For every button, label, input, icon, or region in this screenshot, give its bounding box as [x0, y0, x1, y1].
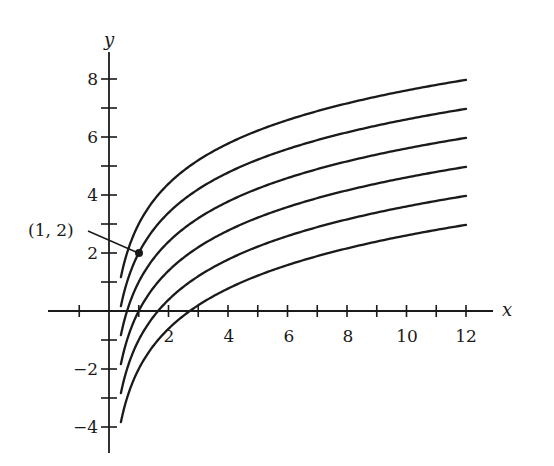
solution-curve [121, 225, 466, 422]
x-tick-label: 6 [284, 326, 295, 346]
x-tick-label: 4 [224, 326, 235, 346]
y-tick-labels: 8 6 4 2 −2 −4 [73, 69, 98, 437]
y-tick-label: 6 [87, 127, 98, 147]
solution-curve [121, 80, 466, 277]
y-tick-label: 2 [87, 243, 98, 263]
point-annotation: (1, 2) [28, 220, 143, 257]
x-tick-label: 12 [455, 326, 477, 346]
solution-curve [121, 109, 466, 306]
solution-curve [121, 196, 466, 393]
annotation-label: (1, 2) [28, 220, 74, 240]
x-tick-label: 8 [343, 326, 354, 346]
chart-canvas: 2 4 6 8 10 12 8 6 4 2 −2 −4 x y (1, 2) [0, 0, 554, 466]
y-tick-label: 4 [87, 185, 98, 205]
x-tick-label: 10 [396, 326, 418, 346]
y-tick-label: −2 [73, 359, 98, 379]
y-axis-label: y [103, 29, 115, 50]
point-marker [135, 249, 143, 257]
y-tick-label: −4 [73, 417, 98, 437]
x-tick-labels: 2 4 6 8 10 12 [164, 326, 477, 346]
y-tick-label: 8 [87, 69, 98, 89]
x-axis-label: x [502, 299, 512, 320]
curve-family [121, 80, 466, 422]
solution-curve [121, 138, 466, 335]
